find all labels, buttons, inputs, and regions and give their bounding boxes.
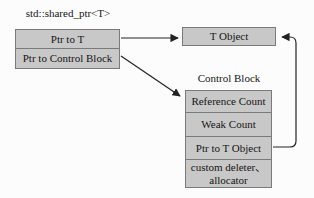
- shared-ptr-row-ptr-to-control-block: Ptr to Control Block: [16, 49, 119, 68]
- shared-ptr-box: Ptr to T Ptr to Control Block: [15, 29, 120, 69]
- control-block-row-ptr-to-t-object: Ptr to T Object: [186, 137, 271, 160]
- t-object-label: T Object: [183, 28, 275, 45]
- control-block-row-reference-count: Reference Count: [186, 91, 271, 113]
- diagram-canvas: std::shared_ptr<T> Ptr to T Ptr to Contr…: [0, 0, 314, 198]
- shared-ptr-row-ptr-to-t: Ptr to T: [16, 30, 119, 49]
- control-block-box: Reference Count Weak Count Ptr to T Obje…: [185, 90, 272, 188]
- control-block-row-weak-count: Weak Count: [186, 113, 271, 137]
- allocator-line: allocator: [186, 174, 271, 187]
- arrow-ptr-to-control-block-to-control-block: [121, 56, 180, 96]
- shared-ptr-title: std::shared_ptr<T>: [15, 7, 121, 19]
- arrow-ptr-to-t-object-to-t-object: [273, 37, 296, 147]
- custom-deleter-line: custom deleter、: [186, 161, 271, 174]
- t-object-box: T Object: [182, 27, 276, 46]
- control-block-title: Control Block: [185, 72, 273, 84]
- control-block-row-custom-deleter-allocator: custom deleter、 allocator: [186, 160, 271, 187]
